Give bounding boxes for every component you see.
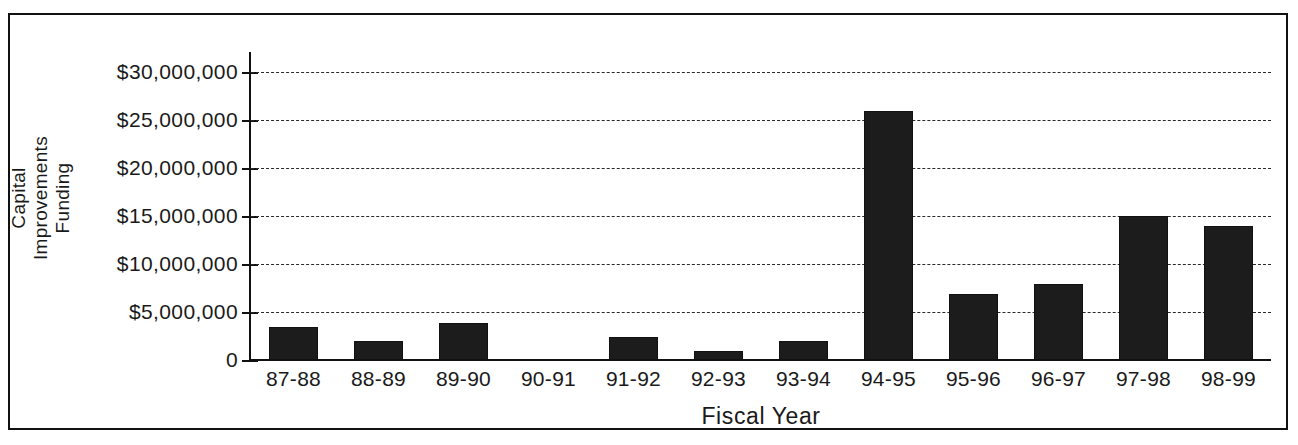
- y-tick-label: $20,000,000: [117, 157, 238, 178]
- bar-slot: [676, 72, 761, 360]
- bar[interactable]: [949, 294, 998, 360]
- bar-slot: [506, 72, 591, 360]
- x-tick-label: 89-90: [421, 367, 506, 391]
- y-tick-label: $25,000,000: [117, 109, 238, 130]
- chart-figure: Capital Improvements Funding $30,000,000…: [0, 0, 1298, 445]
- bar-slot: [846, 72, 931, 360]
- bar[interactable]: [1034, 284, 1083, 360]
- x-tick-label: 90-91: [506, 367, 591, 391]
- y-tick-label: $10,000,000: [117, 253, 238, 274]
- bar-slot: [931, 72, 1016, 360]
- bar-slot: [251, 72, 336, 360]
- bar[interactable]: [439, 323, 488, 360]
- x-tick-label: 98-99: [1186, 367, 1271, 391]
- bar-slot: [1101, 72, 1186, 360]
- bar[interactable]: [864, 111, 913, 360]
- bar[interactable]: [269, 327, 318, 360]
- x-tick-label: 93-94: [761, 367, 846, 391]
- bar-series: [251, 72, 1271, 360]
- x-tick-label: 87-88: [251, 367, 336, 391]
- bar[interactable]: [1204, 226, 1253, 360]
- y-tick-label: $30,000,000: [117, 61, 238, 82]
- x-axis-line: [251, 359, 1271, 361]
- bar[interactable]: [1119, 216, 1168, 360]
- x-axis-title: Fiscal Year: [251, 403, 1271, 429]
- x-tick-label: 97-98: [1101, 367, 1186, 391]
- y-tick-label: 0: [226, 349, 238, 370]
- x-tick-label: 92-93: [676, 367, 761, 391]
- bar[interactable]: [354, 341, 403, 360]
- bar[interactable]: [779, 341, 828, 360]
- x-tick-label: 94-95: [846, 367, 931, 391]
- y-axis-title: Capital Improvements Funding: [8, 103, 74, 293]
- bar-slot: [591, 72, 676, 360]
- bar[interactable]: [609, 337, 658, 360]
- x-tick-label: 91-92: [591, 367, 676, 391]
- y-axis-title-line-1: Capital Improvements: [8, 103, 52, 293]
- x-tick-label: 95-96: [931, 367, 1016, 391]
- chart-frame: Capital Improvements Funding $30,000,000…: [8, 13, 1288, 430]
- y-axis-title-line-2: Funding: [52, 103, 74, 293]
- x-axis-tick-labels: 87-88 88-89 89-90 90-91 91-92 92-93 93-9…: [251, 367, 1271, 391]
- y-tick-label: $15,000,000: [117, 205, 238, 226]
- bar-slot: [1016, 72, 1101, 360]
- bar-slot: [1186, 72, 1271, 360]
- y-tick-label: $5,000,000: [129, 301, 238, 322]
- bar-slot: [761, 72, 846, 360]
- bar-slot: [336, 72, 421, 360]
- bar-slot: [421, 72, 506, 360]
- x-tick-label: 96-97: [1016, 367, 1101, 391]
- y-axis-line: [249, 52, 251, 361]
- x-tick-label: 88-89: [336, 367, 421, 391]
